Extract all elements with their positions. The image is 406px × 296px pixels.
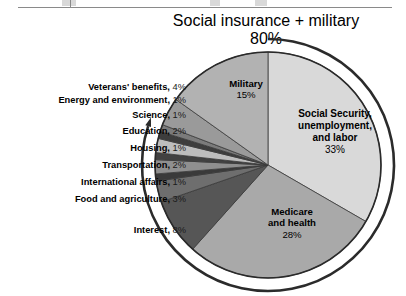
callout-transportation: Transportation, 2% [102,160,186,170]
pie-label-social-security: Social Security, unemployment, and labor… [283,108,387,156]
callout-international-affairs: International affairs, 1% [81,177,186,187]
callout-veterans-benefits: Veterans' benefits, 4% [88,82,186,92]
pie-label-military: Military 15% [200,78,292,101]
callout-housing: Housing, 1% [130,143,186,153]
callout-education: Education, 2% [122,126,186,136]
callout-energy-and-environment: Energy and environment, 1% [58,95,186,105]
figure-canvas: Social insurance + military 80% Veterans… [0,0,406,296]
callout-science: Science, 1% [132,110,186,120]
callout-interest: Interest, 8% [134,225,186,235]
callout-food-and-agriculture: Food and agriculture, 3% [75,194,186,204]
pie-label-medicare-and-health: Medicare and health 28% [244,206,340,240]
